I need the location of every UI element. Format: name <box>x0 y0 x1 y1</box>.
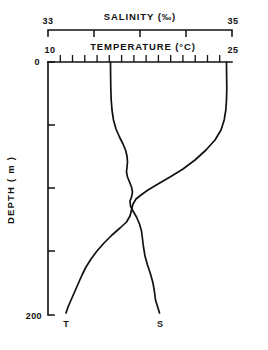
salinity-axis-title: SALINITY (‰) <box>104 11 176 22</box>
depth-min-label: 0 <box>35 57 40 67</box>
temperature-max-label: 25 <box>228 45 239 55</box>
salinity-curve-group: S <box>111 62 164 329</box>
depth-max-label: 200 <box>26 311 42 321</box>
salinity-axis: 33 35 SALINITY (‰) <box>43 11 239 37</box>
temperature-min-label: 10 <box>45 45 56 55</box>
salinity-min-label: 33 <box>43 16 54 26</box>
temperature-axis: 10 25 TEMPERATURE (°C) <box>45 41 239 62</box>
temperature-axis-title: TEMPERATURE (°C) <box>90 41 196 52</box>
temperature-tick-group <box>60 55 219 62</box>
temperature-curve <box>66 62 227 313</box>
temperature-curve-label: T <box>63 319 69 329</box>
depth-axis: 0 200 DEPTH ( m ) <box>5 57 55 321</box>
salinity-max-label: 35 <box>228 16 239 26</box>
depth-axis-title: DEPTH ( m ) <box>5 156 16 224</box>
temperature-curve-group: T <box>63 62 227 329</box>
salinity-curve-label: S <box>157 319 163 329</box>
profile-chart-svg: 33 35 SALINITY (‰) 10 25 TEMPERATURE (°C… <box>0 0 268 350</box>
oceanographic-profile-figure: 33 35 SALINITY (‰) 10 25 TEMPERATURE (°C… <box>0 0 268 350</box>
